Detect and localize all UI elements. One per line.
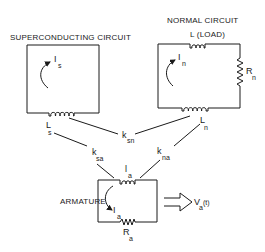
current-is-label: I bbox=[54, 54, 57, 64]
coupling-sn-left-line bbox=[69, 118, 118, 134]
armature-title: ARMATURE bbox=[60, 197, 106, 206]
coupling-sa-top-line bbox=[54, 133, 87, 146]
coupling-ksa-sub: sa bbox=[96, 155, 104, 162]
superconducting-title: SUPERCONDUCTING CIRCUIT bbox=[10, 33, 131, 42]
coupling-sn-right-line bbox=[135, 116, 190, 134]
resistor-ra-sub: a bbox=[129, 235, 133, 242]
load-label: L (LOAD) bbox=[190, 30, 225, 39]
inductor-ln-icon bbox=[182, 108, 208, 111]
normal-loop-left bbox=[158, 44, 190, 108]
current-arrow-is-icon bbox=[41, 62, 50, 88]
superconducting-loop bbox=[27, 45, 99, 113]
current-ia-sub: a bbox=[117, 213, 121, 220]
coupling-ksn-sub: sn bbox=[127, 137, 135, 144]
output-arrow-icon bbox=[164, 193, 192, 211]
armature-circuit: ARMATURE l a R a I a V a (t) bbox=[60, 164, 210, 242]
coupling-na-top-line bbox=[174, 124, 200, 146]
coupled-circuit-diagram: SUPERCONDUCTING CIRCUIT I s L s NORMAL C… bbox=[0, 0, 265, 252]
resistor-rn-icon bbox=[237, 58, 243, 86]
normal-circuit: NORMAL CIRCUIT L (LOAD) R n I n L n bbox=[158, 16, 256, 131]
inductor-ls-sub: s bbox=[48, 129, 52, 136]
coupling-kna-sub: na bbox=[162, 154, 170, 161]
resistor-rn-sub: n bbox=[252, 74, 256, 81]
coupling-sa-bottom-line bbox=[97, 164, 114, 178]
current-ia-label: I bbox=[113, 205, 116, 215]
coupling-na-bottom-line bbox=[140, 160, 160, 178]
inductor-ls-icon bbox=[49, 112, 74, 116]
normal-loop-bottom-right bbox=[208, 86, 240, 108]
inductor-ln-sub: n bbox=[204, 124, 208, 131]
normal-loop-top-right bbox=[205, 44, 240, 58]
superconducting-circuit: SUPERCONDUCTING CIRCUIT I s L s bbox=[10, 33, 131, 136]
inductor-la-label: l bbox=[125, 164, 127, 174]
load-inductor-icon bbox=[190, 44, 205, 48]
coupling-lines: k sn k sa k na bbox=[54, 116, 200, 178]
resistor-ra-icon bbox=[120, 219, 135, 225]
current-is-sub: s bbox=[58, 62, 62, 69]
armature-loop-right bbox=[135, 180, 157, 222]
output-va-suffix: (t) bbox=[203, 199, 210, 207]
current-in-label: I bbox=[178, 52, 181, 62]
current-in-sub: n bbox=[182, 60, 186, 67]
current-arrow-ia-icon bbox=[105, 186, 113, 210]
current-arrow-in-icon bbox=[166, 60, 175, 86]
inductor-la-icon bbox=[120, 180, 135, 184]
inductor-la-sub: a bbox=[128, 172, 132, 179]
normal-title: NORMAL CIRCUIT bbox=[167, 16, 238, 25]
